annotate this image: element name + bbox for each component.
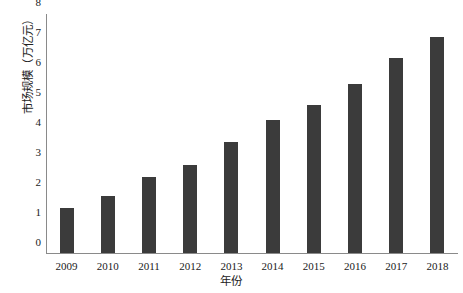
x-tick-label: 2015 [303,260,325,272]
bar [389,58,403,253]
y-tick-label: 7 [36,26,42,38]
bar [348,84,362,254]
x-tick-label: 2016 [344,260,366,272]
x-tick-label: 2012 [179,260,201,272]
bar [266,120,280,254]
bar [307,105,321,254]
bar [183,165,197,254]
bar-chart: 市场规模（万亿元） 012345678 20092010201120122013… [0,0,463,293]
y-tick-label: 8 [36,0,42,8]
y-tick-label: 5 [36,86,42,98]
x-axis-line [46,253,458,254]
y-tick-label: 2 [36,176,42,188]
x-tick-label: 2018 [426,260,448,272]
x-tick-label: 2009 [56,260,78,272]
x-tick-label: 2010 [97,260,119,272]
y-tick-label: 4 [36,116,42,128]
bar [430,37,444,253]
y-axis-title: 市场规模（万亿元） [20,0,36,144]
x-tick-label: 2017 [385,260,407,272]
x-tick-label: 2013 [220,260,242,272]
bar [224,142,238,253]
y-tick-label: 6 [36,56,42,68]
y-tick-label: 0 [36,236,42,248]
y-tick-label: 1 [36,206,42,218]
bar [60,208,74,253]
x-tick-label: 2014 [262,260,284,272]
x-axis-title: 年份 [0,272,463,288]
bar [142,177,156,254]
bar [101,196,115,253]
y-tick-label: 3 [36,146,42,158]
y-axis-line [46,14,47,254]
plot-area: 012345678 200920102011201220132014201520… [46,14,458,254]
x-tick-label: 2011 [138,260,160,272]
